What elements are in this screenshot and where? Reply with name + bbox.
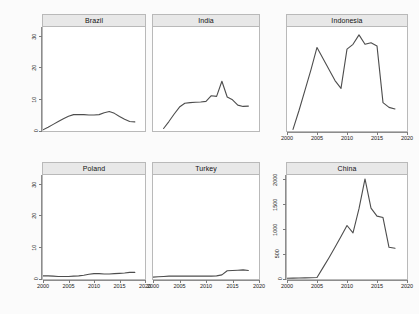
y-tick-mark <box>39 215 42 216</box>
x-tick-label: 2005 <box>173 284 185 290</box>
y-tick-label: 30 <box>32 181 38 187</box>
panel-strip-china: China <box>286 162 408 175</box>
panel-title: Poland <box>83 165 105 172</box>
y-tick-mark <box>283 254 286 255</box>
x-tick-label: 2005 <box>311 136 323 142</box>
panel-china: China <box>286 162 408 280</box>
panel-title: China <box>338 165 357 172</box>
y-tick-mark <box>39 184 42 185</box>
panel-strip-poland: Poland <box>42 162 146 175</box>
series-line <box>164 81 249 128</box>
y-tick-mark <box>39 279 42 280</box>
y-tick-label: 1000 <box>273 223 279 235</box>
x-tick-label: 2010 <box>200 284 212 290</box>
plot-area-poland <box>42 175 146 280</box>
y-tick-label: 0 <box>34 277 40 280</box>
panel-india: India <box>152 14 260 132</box>
panel-brazil: Brazil <box>42 14 146 132</box>
series-line <box>153 270 248 277</box>
x-tick-label: 2020 <box>253 284 265 290</box>
x-tick-label: 2000 <box>281 284 293 290</box>
x-tick-label: 2015 <box>226 284 238 290</box>
x-tick-label: 2020 <box>401 284 413 290</box>
x-tick-label: 2005 <box>62 284 74 290</box>
y-tick-mark <box>283 279 286 280</box>
y-axis-line <box>285 175 286 279</box>
y-tick-label: 20 <box>32 65 38 71</box>
y-tick-label: 0 <box>34 129 40 132</box>
y-tick-label: 30 <box>32 33 38 39</box>
y-tick-mark <box>283 179 286 180</box>
y-axis-line <box>41 27 42 131</box>
x-axis-turkey: 20002005201020152020 <box>153 280 259 292</box>
panel-strip-turkey: Turkey <box>152 162 260 175</box>
x-tick-label: 2015 <box>371 284 383 290</box>
y-axis-brazil: 0102030 <box>26 27 42 131</box>
panel-turkey: Turkey <box>152 162 260 280</box>
y-axis-poland: 0102030 <box>26 175 42 279</box>
y-tick-label: 2000 <box>273 174 279 186</box>
panel-title: Indonesia <box>331 17 362 24</box>
y-tick-label: 10 <box>32 244 38 250</box>
plot-area-india <box>152 27 260 132</box>
y-tick-mark <box>39 131 42 132</box>
series-line <box>287 179 395 278</box>
x-tick-label: 2020 <box>401 136 413 142</box>
panel-strip-brazil: Brazil <box>42 14 146 27</box>
y-tick-mark <box>39 99 42 100</box>
x-axis-indonesia: 20002005201020152020 <box>287 132 407 144</box>
y-tick-mark <box>283 204 286 205</box>
small-multiples-figure: Brazil0102030IndiaIndonesia2000200520102… <box>0 0 419 314</box>
y-tick-label: 500 <box>275 250 281 259</box>
x-tick-label: 2000 <box>37 284 49 290</box>
plot-area-turkey <box>152 175 260 280</box>
x-tick-label: 2000 <box>281 136 293 142</box>
y-tick-label: 10 <box>32 96 38 102</box>
x-tick-label: 2005 <box>311 284 323 290</box>
panel-strip-india: India <box>152 14 260 27</box>
panel-strip-indonesia: Indonesia <box>286 14 408 27</box>
series-line <box>293 35 395 130</box>
x-axis-poland: 20002005201020152020 <box>43 280 145 292</box>
x-axis-china: 20002005201020152020 <box>287 280 407 292</box>
y-tick-label: 0 <box>278 277 284 280</box>
panel-indonesia: Indonesia <box>286 14 408 132</box>
plot-area-indonesia <box>286 27 408 132</box>
y-axis-china: 0500100015002000 <box>270 175 286 279</box>
y-tick-mark <box>39 36 42 37</box>
y-tick-mark <box>39 247 42 248</box>
x-tick-label: 2010 <box>88 284 100 290</box>
y-tick-label: 1500 <box>273 199 279 211</box>
x-tick-label: 2010 <box>341 136 353 142</box>
panel-title: Brazil <box>85 17 103 24</box>
x-tick-label: 2015 <box>371 136 383 142</box>
panel-title: Turkey <box>195 165 217 172</box>
x-tick-label: 2010 <box>341 284 353 290</box>
series-line <box>43 272 135 276</box>
series-line <box>43 111 135 129</box>
y-tick-label: 20 <box>32 213 38 219</box>
plot-area-china <box>286 175 408 280</box>
y-axis-line <box>41 175 42 279</box>
plot-area-brazil <box>42 27 146 132</box>
panel-title: India <box>198 17 214 24</box>
panel-poland: Poland <box>42 162 146 280</box>
y-tick-mark <box>39 67 42 68</box>
x-tick-label: 2015 <box>113 284 125 290</box>
x-tick-label: 2000 <box>147 284 159 290</box>
y-tick-mark <box>283 229 286 230</box>
